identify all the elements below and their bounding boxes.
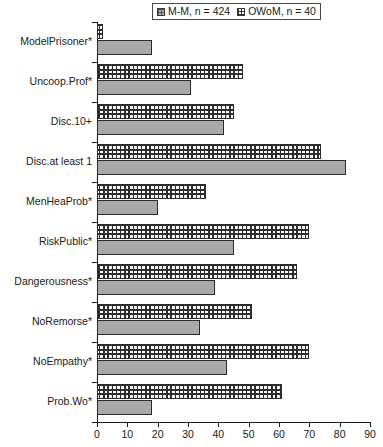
bar-owom: [97, 24, 103, 39]
bar-owom: [97, 224, 309, 239]
bar-owom: [97, 344, 309, 359]
bar-group: [97, 222, 370, 262]
y-axis-label: NoRemorse*: [5, 316, 97, 327]
plot-area: [97, 22, 370, 422]
x-axis-tick: [97, 422, 98, 427]
legend-label-owom: OWoM, n = 40: [248, 6, 316, 17]
bar-mm: [97, 280, 215, 295]
y-axis-label: Uncoop.Prof*: [5, 76, 97, 87]
x-axis-tick-label: 20: [152, 429, 164, 440]
x-axis-tick-label: 50: [243, 429, 255, 440]
x-axis-tick-label: 0: [94, 429, 100, 440]
y-axis-label: Disc.at least 1: [5, 156, 97, 167]
bar-mm: [97, 200, 158, 215]
x-axis-tick: [249, 422, 250, 427]
x-axis-tick-label: 80: [334, 429, 346, 440]
y-axis-label: ModelPrisoner*: [5, 36, 97, 47]
bar-mm: [97, 80, 191, 95]
bar-group: [97, 302, 370, 342]
x-axis-tick-label: 70: [303, 429, 315, 440]
bar-group: [97, 262, 370, 302]
chart-legend: M-M, n = 424 OWoM, n = 40: [152, 3, 321, 20]
x-axis-tick-label: 60: [273, 429, 285, 440]
bar-mm: [97, 120, 224, 135]
legend-swatch-mm-icon: [157, 8, 165, 16]
bar-chart: M-M, n = 424 OWoM, n = 40 ModelPrisoner*…: [0, 0, 383, 447]
y-axis-label: MenHeaProb*: [5, 196, 97, 207]
bar-mm: [97, 240, 234, 255]
x-axis-tick: [279, 422, 280, 427]
x-axis-tick: [309, 422, 310, 427]
y-axis-labels: ModelPrisoner*Uncoop.Prof*Disc.10+Disc.a…: [0, 22, 97, 422]
y-axis-label: RiskPublic*: [5, 236, 97, 247]
bar-mm: [97, 360, 227, 375]
x-axis-tick-label: 40: [212, 429, 224, 440]
bar-owom: [97, 264, 297, 279]
y-axis-label: Disc.10+: [5, 116, 97, 127]
y-axis-label: Prob.Wo*: [5, 396, 97, 407]
bar-owom: [97, 184, 206, 199]
bar-owom: [97, 144, 321, 159]
bar-owom: [97, 104, 234, 119]
bar-group: [97, 142, 370, 182]
x-axis-tick: [158, 422, 159, 427]
x-axis-tick-label: 90: [364, 429, 376, 440]
bar-owom: [97, 384, 282, 399]
legend-item-owom: OWoM, n = 40: [237, 6, 316, 17]
bar-owom: [97, 304, 252, 319]
x-axis-tick: [127, 422, 128, 427]
y-axis-label: NoEmpathy*: [5, 356, 97, 367]
bar-group: [97, 382, 370, 422]
x-axis-tick: [340, 422, 341, 427]
bar-mm: [97, 400, 152, 415]
x-axis-tick: [218, 422, 219, 427]
bar-group: [97, 342, 370, 382]
y-axis-label: Dangerousness*: [5, 276, 97, 287]
bar-group: [97, 22, 370, 62]
x-axis-tick-label: 10: [121, 429, 133, 440]
legend-item-mm: M-M, n = 424: [157, 6, 230, 17]
bar-group: [97, 182, 370, 222]
bar-group: [97, 62, 370, 102]
x-axis-tick: [370, 422, 371, 427]
bar-group: [97, 102, 370, 142]
bar-mm: [97, 320, 200, 335]
bar-mm: [97, 40, 152, 55]
legend-label-mm: M-M, n = 424: [168, 6, 230, 17]
x-axis-ticks: 0102030405060708090: [97, 422, 371, 447]
bar-mm: [97, 160, 346, 175]
bar-owom: [97, 64, 243, 79]
legend-swatch-owom-icon: [237, 8, 245, 16]
x-axis-tick-label: 30: [182, 429, 194, 440]
x-axis-tick: [188, 422, 189, 427]
